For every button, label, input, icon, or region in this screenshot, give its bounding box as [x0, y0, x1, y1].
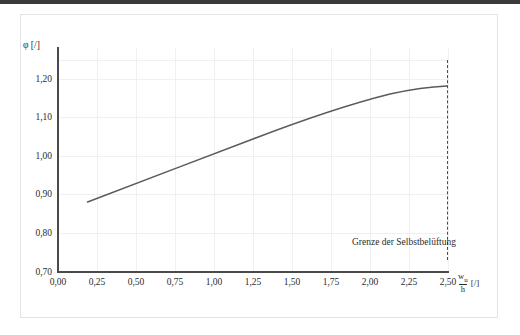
- chart-curve-svg: [0, 0, 520, 335]
- phi-curve: [88, 86, 447, 202]
- self-aeration-limit-label: Grenze der Selbstbelüftung: [352, 237, 456, 247]
- self-aeration-limit-line: [447, 60, 448, 260]
- chart-plot-area: φ [/] 1,20 1,10 1,00 0,90 0,80 0,70 0,00…: [0, 0, 520, 335]
